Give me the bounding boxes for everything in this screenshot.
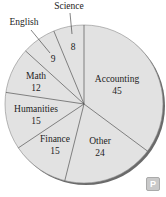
- label-math-value: 12: [31, 83, 41, 93]
- label-finance-name: Finance: [40, 134, 70, 144]
- pie-chart: Accounting 45 Other 24 Finance 15 Humani…: [0, 0, 166, 197]
- label-english-value: 9: [51, 54, 56, 64]
- label-science-name: Science: [54, 1, 84, 11]
- label-english-name: English: [9, 17, 38, 27]
- label-humanities-value: 15: [31, 116, 41, 126]
- p-icon[interactable]: P: [146, 177, 160, 191]
- label-other-name: Other: [89, 136, 111, 146]
- label-humanities-name: Humanities: [14, 104, 58, 114]
- label-math-name: Math: [26, 71, 46, 81]
- label-accounting-value: 45: [112, 86, 122, 96]
- label-accounting-name: Accounting: [95, 74, 140, 84]
- label-finance-value: 15: [50, 146, 60, 156]
- label-other-value: 24: [95, 148, 105, 158]
- label-science-value: 8: [71, 42, 76, 52]
